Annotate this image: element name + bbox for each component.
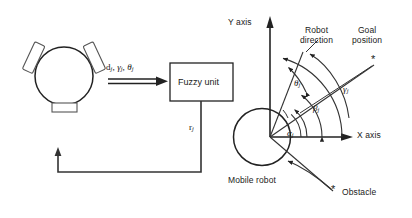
- robot-direction-line2: direction: [300, 35, 333, 45]
- origin-tick-arc: [283, 110, 288, 118]
- theta-angle-label: θj: [294, 78, 300, 89]
- x-axis: [270, 133, 353, 141]
- mobile-robot-label: Mobile robot: [228, 176, 276, 186]
- y-axis-label: Y axis: [228, 18, 252, 28]
- x-axis-label: X axis: [357, 131, 381, 141]
- alpha-angle-label: αj: [287, 128, 294, 139]
- diagram-vector-layer: [0, 0, 412, 218]
- y-axis: [266, 16, 273, 137]
- goal-position-label: Goal position: [352, 26, 382, 45]
- goal-direction-ray: [270, 65, 374, 137]
- robot-direction-line1: Robot: [305, 25, 328, 35]
- obstacle-marker-asterisk: *: [331, 183, 335, 195]
- obstacle-leader: [288, 161, 331, 189]
- input-signal-label: dj, γj, θj: [106, 62, 134, 73]
- feedback-label: rj: [189, 122, 194, 133]
- gamma-angle-label: γj: [343, 84, 348, 95]
- beta-angle-label: βj: [313, 103, 319, 114]
- goal-marker-asterisk: *: [371, 53, 375, 65]
- figure-canvas: dj, γj, θj Fuzzy unit rj Y axis X axis R…: [0, 0, 412, 218]
- robot-caster: [52, 103, 77, 112]
- goal-line1: Goal: [358, 25, 376, 35]
- goal-line2: position: [352, 35, 382, 45]
- obstacle-label: Obstacle: [342, 188, 376, 198]
- fuzzy-unit-label: Fuzzy unit: [178, 77, 219, 87]
- input-signal-arrow: [108, 77, 168, 87]
- beta-arc: [302, 95, 323, 137]
- robot-direction-label: Robot direction: [300, 26, 333, 45]
- mobile-robot-icon: [22, 42, 105, 112]
